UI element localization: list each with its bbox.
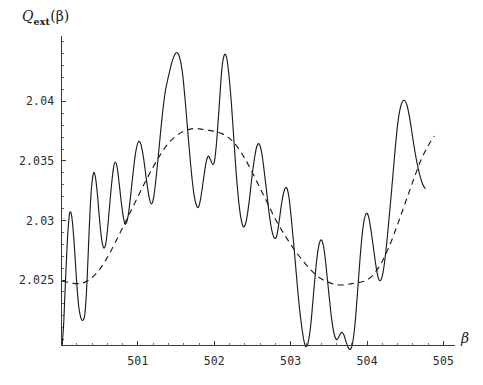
y-tick-label-2.035: 2.035	[0, 154, 55, 168]
x-axis-title: β	[461, 330, 469, 346]
x-axis-ticks	[77, 341, 444, 346]
plot-canvas	[0, 0, 483, 385]
x-tick-label-501: 501	[122, 354, 154, 368]
extinction-efficiency-plot: Qext(β) β 501502503504505 2.0252.032.035…	[0, 0, 483, 385]
series-line-exact	[62, 53, 425, 350]
y-tick-label-2.03: 2.03	[0, 214, 55, 228]
x-tick-label-504: 504	[351, 354, 383, 368]
y-axis-title: Qext(β)	[22, 8, 69, 27]
y-axis-title-base: Q	[22, 8, 33, 24]
x-tick-label-505: 505	[428, 354, 460, 368]
y-axis-title-subscript: ext	[33, 16, 50, 27]
y-tick-label-2.04: 2.04	[0, 94, 55, 108]
y-tick-label-2.025: 2.025	[0, 273, 55, 287]
x-tick-label-503: 503	[275, 354, 307, 368]
y-axis-title-argument: (β)	[50, 8, 69, 24]
x-tick-label-502: 502	[198, 354, 230, 368]
